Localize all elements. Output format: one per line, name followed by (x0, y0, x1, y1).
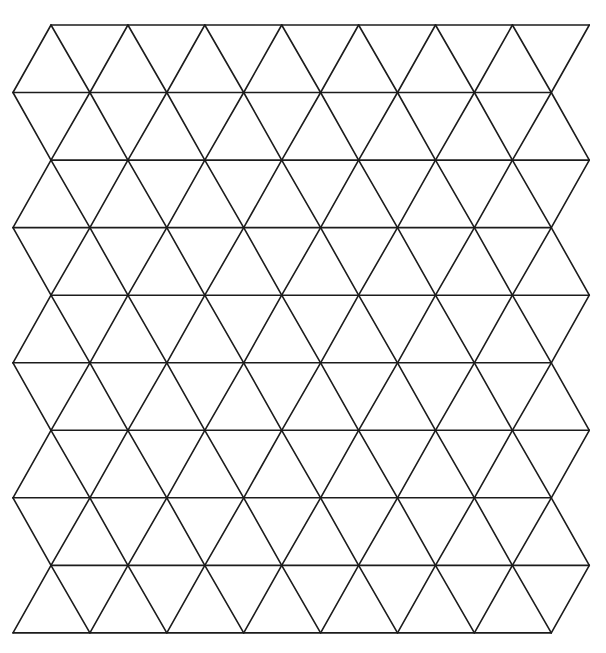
grid-diagonal-line (205, 25, 244, 93)
grid-diagonal-line (398, 430, 436, 498)
grid-diagonal-line (321, 565, 359, 633)
grid-diagonal-line (167, 363, 205, 431)
grid-diagonal-line (512, 498, 551, 566)
grid-diagonal-line (13, 430, 51, 498)
grid-diagonal-line (205, 160, 244, 228)
grid-diagonal-line (359, 25, 398, 93)
grid-diagonal-line (436, 565, 475, 633)
grid-diagonal-line (205, 430, 244, 498)
grid-diagonal-line (474, 498, 512, 566)
grid-diagonal-line (436, 295, 475, 363)
grid-diagonal-line (551, 498, 589, 566)
grid-diagonal-line (359, 565, 398, 633)
grid-diagonal-line (551, 565, 589, 633)
grid-diagonal-line (359, 295, 398, 363)
grid-diagonal-line (512, 565, 551, 633)
grid-diagonal-line (167, 25, 205, 93)
grid-diagonal-line (90, 565, 128, 633)
grid-diagonal-line (128, 295, 167, 363)
grid-diagonal-line (474, 430, 512, 498)
grid-diagonal-line (128, 25, 167, 93)
grid-diagonal-line (244, 295, 282, 363)
grid-diagonal-line (398, 363, 436, 431)
grid-diagonal-line (244, 93, 282, 161)
grid-diagonal-line (13, 25, 51, 93)
grid-diagonal-line (359, 160, 398, 228)
grid-diagonal-line (512, 228, 551, 296)
grid-diagonal-line (321, 430, 359, 498)
grid-diagonal-line (359, 498, 398, 566)
grid-diagonal-line (398, 160, 436, 228)
grid-diagonal-line (321, 295, 359, 363)
grid-diagonal-line (359, 93, 398, 161)
grid-diagonal-line (51, 363, 90, 431)
grid-diagonal-line (474, 160, 512, 228)
grid-diagonal-line (282, 25, 321, 93)
grid-diagonal-line (13, 228, 51, 296)
grid-diagonal-line (512, 93, 551, 161)
grid-diagonal-line (436, 430, 475, 498)
grid-diagonal-line (128, 93, 167, 161)
grid-diagonal-line (474, 363, 512, 431)
grid-diagonal-line (551, 160, 589, 228)
grid-diagonal-line (436, 228, 475, 296)
triangle-grid-diagram (0, 0, 606, 653)
grid-diagonal-line (321, 228, 359, 296)
grid-diagonal-line (51, 430, 90, 498)
grid-diagonal-line (90, 93, 128, 161)
grid-diagonal-line (244, 565, 282, 633)
grid-diagonal-line (282, 363, 321, 431)
grid-diagonal-line (321, 93, 359, 161)
grid-diagonal-line (436, 363, 475, 431)
grid-diagonal-line (512, 295, 551, 363)
grid-diagonal-line (244, 160, 282, 228)
grid-diagonal-line (13, 160, 51, 228)
grid-diagonal-line (436, 25, 475, 93)
grid-diagonal-line (359, 363, 398, 431)
grid-diagonal-line (551, 228, 589, 296)
grid-diagonal-line (51, 93, 90, 161)
grid-diagonal-line (436, 160, 475, 228)
grid-diagonal-line (551, 363, 589, 431)
grid-diagonal-line (167, 228, 205, 296)
grid-diagonal-line (205, 228, 244, 296)
grid-diagonal-line (90, 25, 128, 93)
grid-diagonal-line (436, 498, 475, 566)
grid-diagonal-line (474, 25, 512, 93)
grid-diagonal-line (551, 430, 589, 498)
grid-diagonal-line (205, 295, 244, 363)
grid-diagonal-line (244, 228, 282, 296)
grid-diagonal-line (551, 295, 589, 363)
grid-diagonal-line (321, 160, 359, 228)
grid-diagonal-line (128, 565, 167, 633)
grid-diagonal-line (398, 93, 436, 161)
grid-diagonal-line (359, 228, 398, 296)
grid-diagonal-line (128, 228, 167, 296)
grid-diagonal-line (128, 363, 167, 431)
grid-diagonal-line (551, 93, 589, 161)
grid-diagonal-line (51, 295, 90, 363)
grid-diagonal-line (13, 363, 51, 431)
grid-diagonal-line (474, 93, 512, 161)
grid-diagonal-line (90, 160, 128, 228)
grid-diagonal-line (51, 498, 90, 566)
grid-diagonal-line (90, 295, 128, 363)
grid-diagonal-line (551, 25, 589, 93)
grid-diagonal-line (359, 430, 398, 498)
grid-diagonal-line (128, 498, 167, 566)
grid-diagonal-line (474, 565, 512, 633)
grid-diagonal-line (398, 565, 436, 633)
grid-diagonal-line (90, 363, 128, 431)
grid-diagonal-line (167, 160, 205, 228)
grid-diagonal-line (282, 498, 321, 566)
grid-diagonal-line (398, 25, 436, 93)
grid-diagonal-line (244, 498, 282, 566)
grid-diagonal-line (512, 430, 551, 498)
grid-diagonal-line (90, 228, 128, 296)
grid-diagonal-line (244, 363, 282, 431)
grid-diagonal-line (282, 93, 321, 161)
grid-diagonal-line (205, 498, 244, 566)
grid-diagonal-line (512, 25, 551, 93)
grid-diagonal-line (167, 430, 205, 498)
grid-diagonal-line (474, 295, 512, 363)
